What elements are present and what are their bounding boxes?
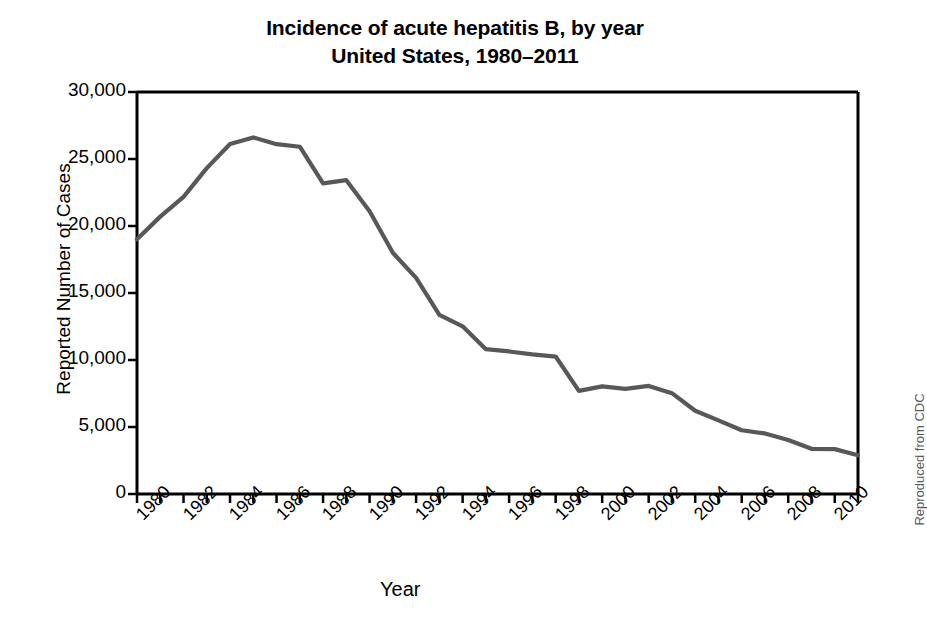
data-series-line <box>137 137 858 455</box>
